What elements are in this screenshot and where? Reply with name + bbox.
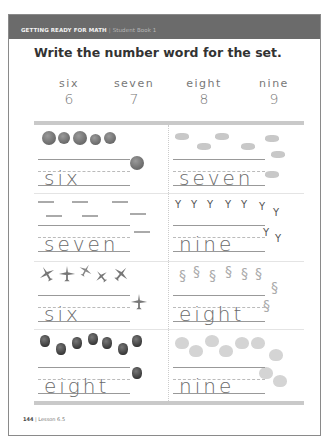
worm-icon: § (241, 265, 248, 281)
worm-icon: § (209, 267, 216, 283)
key-eight: eight 8 (174, 77, 234, 107)
rabbit-icon (197, 143, 211, 150)
stick-icon (82, 215, 98, 217)
key-word: six (39, 77, 99, 90)
key-word: eight (174, 77, 234, 90)
answer-word: seven (179, 167, 254, 189)
answer-word: six (44, 303, 81, 325)
berry-icon (40, 335, 50, 347)
airplane-icon (78, 263, 93, 278)
exercise-balls: six (34, 125, 169, 193)
ball-icon (58, 132, 70, 144)
berry-icon (102, 337, 112, 349)
stick-icon (134, 231, 150, 233)
exercise-ducklings: nine (169, 329, 304, 401)
sprout-icon: Y (275, 233, 281, 244)
top-line (173, 295, 265, 296)
stick-icon (38, 201, 54, 203)
key-digit: 7 (104, 91, 164, 107)
writing-lines[interactable]: seven (38, 225, 130, 253)
worm-icon: § (179, 267, 186, 283)
writing-lines[interactable]: six (38, 295, 130, 323)
airplane-icon (38, 265, 56, 283)
exercise-grid: six seven (34, 125, 304, 401)
top-line (173, 367, 265, 368)
rabbit-icon (175, 133, 189, 140)
airplane-icon (130, 293, 148, 311)
rabbit-icon (215, 133, 229, 140)
top-line (38, 225, 130, 226)
answer-word: six (44, 167, 81, 189)
key-word: seven (104, 77, 164, 90)
book-subtitle: Student Book 1 (113, 27, 157, 33)
duckling-icon (235, 337, 249, 349)
worm-icon: § (225, 263, 232, 279)
key-nine: nine 9 (244, 77, 304, 107)
worksheet-page: GETTING READY FOR MATH|Student Book 1 Wr… (8, 14, 321, 436)
writing-lines[interactable]: eight (38, 367, 130, 395)
berry-icon (72, 337, 82, 349)
writing-lines[interactable]: six (38, 159, 130, 187)
instruction-title: Write the number word for the set. (34, 45, 282, 60)
sprout-icon: Y (225, 199, 231, 210)
ball-icon (42, 131, 56, 145)
writing-lines[interactable]: nine (173, 225, 265, 253)
stick-icon (130, 213, 146, 215)
book-header: GETTING READY FOR MATH|Student Book 1 (21, 27, 156, 33)
rabbit-icon (265, 171, 279, 178)
sprout-icon: Y (175, 199, 181, 210)
key-seven: seven 7 (104, 77, 164, 107)
lesson-label: Lesson 6.5 (38, 416, 65, 422)
rabbit-icon (265, 135, 279, 142)
answer-word: nine (179, 375, 234, 397)
duckling-icon (251, 337, 265, 349)
exercise-berries: eight (34, 329, 169, 401)
top-line (38, 295, 130, 296)
bottom-divider-stripe (34, 401, 304, 405)
exercise-worms: § § § § § § § § eight (169, 261, 304, 329)
top-line (38, 367, 130, 368)
answer-word: nine (179, 233, 234, 255)
duckling-icon (175, 337, 189, 349)
answer-word: eight (179, 303, 244, 325)
worm-icon: § (255, 265, 262, 281)
footer-separator: | (35, 416, 37, 422)
berry-icon (118, 343, 128, 355)
stick-icon (46, 215, 62, 217)
key-digit: 8 (174, 91, 234, 107)
rabbit-icon (241, 143, 255, 150)
ball-icon (130, 156, 144, 170)
duckling-icon (269, 349, 283, 361)
stick-icon (72, 201, 88, 203)
berry-icon (132, 335, 142, 347)
worm-icon: § (193, 263, 200, 279)
key-word: nine (244, 77, 304, 90)
answer-word: eight (44, 375, 109, 397)
key-digit: 6 (39, 91, 99, 107)
writing-lines[interactable]: nine (173, 367, 265, 395)
writing-lines[interactable]: seven (173, 159, 265, 187)
ball-icon (104, 132, 116, 144)
top-line (173, 225, 265, 226)
page-number: 144 (23, 416, 33, 422)
duckling-icon (219, 345, 233, 357)
worm-icon: § (271, 279, 278, 295)
key-digit: 9 (244, 91, 304, 107)
number-key: six 6 seven 7 eight 8 nine 9 (39, 77, 299, 121)
book-title: GETTING READY FOR MATH (21, 27, 107, 33)
rabbit-icon (271, 151, 285, 158)
answer-word: seven (44, 233, 119, 255)
sprout-icon: Y (241, 199, 247, 210)
sprout-icon: Y (191, 199, 197, 210)
airplane-icon (58, 265, 76, 283)
duckling-icon (189, 345, 203, 357)
exercise-sticks: seven (34, 193, 169, 261)
page-footer: 144 | Lesson 6.5 (23, 416, 65, 422)
key-six: six 6 (39, 77, 99, 107)
top-line (173, 159, 265, 160)
top-line (38, 159, 130, 160)
writing-lines[interactable]: eight (173, 295, 265, 323)
airplane-icon (112, 265, 130, 283)
sprout-icon: Y (259, 201, 265, 212)
sprout-icon: Y (273, 207, 279, 218)
